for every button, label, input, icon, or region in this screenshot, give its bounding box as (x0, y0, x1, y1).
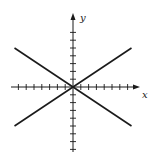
x-axis-label: x (142, 89, 148, 100)
graph-figure: x y (0, 0, 149, 153)
coordinate-plane: x y (0, 0, 149, 153)
y-axis-arrowhead (71, 13, 76, 20)
y-axis-label: y (79, 12, 86, 23)
axes (11, 13, 140, 152)
x-axis-arrowhead (133, 85, 140, 90)
